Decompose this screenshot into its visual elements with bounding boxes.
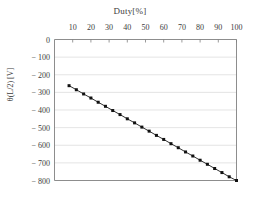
data-point-marker [75, 88, 78, 91]
data-point-marker [177, 146, 180, 149]
data-point-marker [140, 126, 143, 129]
data-point-marker [111, 109, 114, 112]
data-point-marker [104, 105, 107, 108]
data-point-marker [169, 142, 172, 145]
data-point-marker [206, 163, 209, 166]
data-point-marker [235, 179, 238, 182]
data-point-marker [199, 159, 202, 162]
data-point-marker [119, 113, 122, 116]
data-point-marker [126, 117, 129, 120]
data-point-marker [213, 167, 216, 170]
data-point-marker [97, 101, 100, 104]
data-line [69, 86, 236, 181]
data-point-marker [155, 134, 158, 137]
data-point-marker [184, 150, 187, 153]
data-point-marker [162, 138, 165, 141]
plot-area [0, 0, 260, 199]
data-point-marker [68, 84, 71, 87]
data-point-marker [228, 175, 231, 178]
chart-figure: Duty[%] 102030405060708090100 0− 100− 20… [0, 0, 260, 199]
data-point-marker [82, 92, 85, 95]
data-point-marker [191, 155, 194, 158]
data-point-marker [89, 97, 92, 100]
gridlines [55, 57, 237, 163]
data-point-marker [133, 121, 136, 124]
data-point-marker [148, 130, 151, 133]
data-point-marker [220, 171, 223, 174]
